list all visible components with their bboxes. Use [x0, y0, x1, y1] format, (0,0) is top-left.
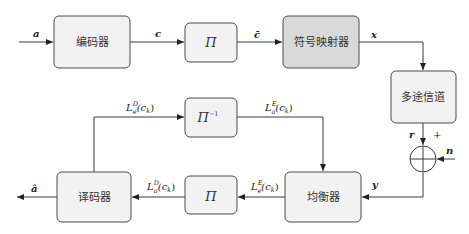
interleaver-bottom-block: Π [185, 176, 237, 214]
encoder-label: 编码器 [76, 35, 109, 49]
signal-la-D: LDa(ck) [146, 179, 175, 195]
wire-le-D [94, 117, 184, 172]
adder [410, 146, 436, 172]
interleaver-bottom-label: Π [204, 189, 217, 204]
channel-block: 多途信道 [391, 71, 456, 123]
wire-x [359, 42, 423, 70]
signal-le-D: LDe(ck) [125, 100, 154, 116]
signal-cbar: c̄ [254, 29, 260, 40]
signal-y: y [371, 179, 379, 190]
signal-plus: + [433, 129, 441, 140]
deinterleaver-block: Π−1 [185, 98, 237, 137]
signal-le-E: LEe(ck) [250, 179, 279, 195]
signal-x: x [370, 29, 378, 40]
decoder-block: 译码器 [57, 172, 131, 222]
signal-n: n [446, 145, 453, 156]
signal-la-E: LEa(ck) [264, 100, 293, 116]
mapper-label: 符号映射器 [294, 35, 349, 49]
signal-r: r [409, 129, 415, 140]
interleaver-top-block: Π [185, 23, 237, 62]
deinterleaver-label: Π [197, 110, 210, 125]
signal-a-hat: â [31, 183, 37, 194]
deinterleaver-sup: −1 [209, 110, 219, 118]
mapper-block: 符号映射器 [283, 16, 359, 68]
channel-label: 多途信道 [401, 90, 445, 104]
equalizer-block: 均衡器 [285, 172, 361, 222]
block-diagram: 编码器 Π 符号映射器 多途信道 均衡器 Π Π−1 译码器 a c c̄ x … [0, 0, 469, 234]
wire-la-E [237, 117, 323, 171]
signal-c: c [155, 28, 161, 39]
encoder-block: 编码器 [54, 16, 130, 68]
equalizer-label: 均衡器 [307, 191, 340, 204]
signal-a: a [33, 28, 39, 39]
interleaver-top-label: Π [204, 35, 217, 50]
decoder-label: 译码器 [78, 191, 111, 204]
